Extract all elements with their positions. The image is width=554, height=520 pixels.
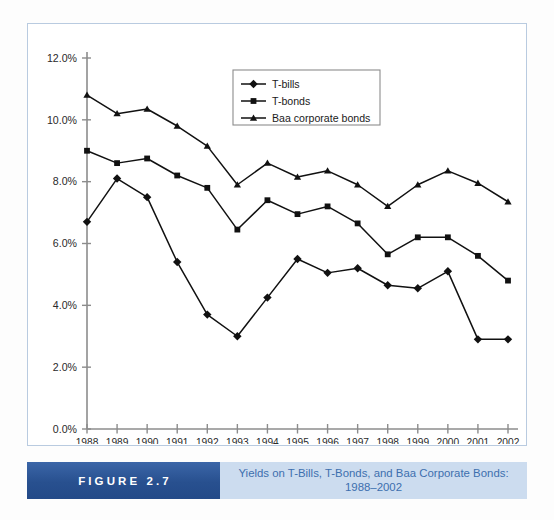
data-point <box>84 148 90 154</box>
y-tick-label: 6.0% <box>53 237 78 249</box>
data-point <box>83 91 90 97</box>
data-point <box>173 258 181 266</box>
data-point <box>144 156 150 162</box>
data-point <box>445 234 451 240</box>
data-point <box>504 198 511 204</box>
x-tick-label: 1994 <box>256 437 279 444</box>
x-tick-label: 1999 <box>406 437 429 444</box>
x-tick-label: 1993 <box>226 437 249 444</box>
x-tick-label: 2001 <box>467 437 490 444</box>
data-point <box>323 269 331 277</box>
data-point <box>384 281 392 289</box>
data-point <box>204 142 211 148</box>
data-point <box>204 185 210 191</box>
data-point <box>385 251 391 257</box>
figure-root: 0.0%2.0%4.0%6.0%8.0%10.0%12.0%1988198919… <box>0 0 554 520</box>
data-point <box>475 253 481 259</box>
data-point <box>505 278 511 284</box>
legend-label: T-bonds <box>272 95 310 107</box>
x-tick-label: 1992 <box>196 437 219 444</box>
data-point <box>504 335 512 343</box>
data-point <box>234 227 240 233</box>
y-tick-label: 10.0% <box>47 114 78 126</box>
x-tick-label: 1991 <box>166 437 189 444</box>
data-point <box>325 204 331 210</box>
data-point <box>295 211 301 217</box>
x-tick-label: 2000 <box>437 437 460 444</box>
x-tick-label: 1989 <box>106 437 129 444</box>
figure-caption-band: FIGURE 2.7 Yields on T-Bills, T-Bonds, a… <box>27 462 527 499</box>
data-point <box>415 234 421 240</box>
data-point <box>144 105 151 111</box>
figure-number-tag: FIGURE 2.7 <box>27 462 220 499</box>
data-point <box>114 160 120 166</box>
data-point <box>444 267 452 275</box>
data-point <box>355 221 361 227</box>
y-tick-label: 2.0% <box>53 361 78 373</box>
data-point <box>414 284 422 292</box>
data-point <box>174 173 180 179</box>
y-tick-label: 4.0% <box>53 299 78 311</box>
figure-caption: Yields on T-Bills, T-Bonds, and Baa Corp… <box>220 462 527 499</box>
data-point <box>474 335 482 343</box>
y-tick-label: 8.0% <box>53 175 78 187</box>
chart-frame: 0.0%2.0%4.0%6.0%8.0%10.0%12.0%1988198919… <box>27 23 527 446</box>
caption-line-2: 1988–2002 <box>345 480 402 494</box>
data-point <box>265 197 271 203</box>
x-tick-label: 1990 <box>136 437 159 444</box>
x-tick-label: 1997 <box>346 437 369 444</box>
data-point <box>174 122 181 128</box>
y-tick-label: 12.0% <box>47 52 78 64</box>
legend-label: Baa corporate bonds <box>272 112 370 124</box>
x-tick-label: 1988 <box>76 437 99 444</box>
data-point <box>353 264 361 272</box>
x-tick-label: 1998 <box>376 437 399 444</box>
data-point <box>264 159 271 165</box>
data-point <box>444 167 451 173</box>
x-tick-label: 2002 <box>497 437 520 444</box>
y-tick-label: 0.0% <box>53 423 78 435</box>
caption-line-1: Yields on T-Bills, T-Bonds, and Baa Corp… <box>238 466 508 480</box>
data-point <box>143 193 151 201</box>
x-tick-label: 1995 <box>286 437 309 444</box>
data-point <box>324 167 331 173</box>
yields-line-chart: 0.0%2.0%4.0%6.0%8.0%10.0%12.0%1988198919… <box>28 24 525 444</box>
legend-label: T-bills <box>272 78 300 90</box>
x-tick-label: 1996 <box>316 437 339 444</box>
legend-marker <box>251 98 257 104</box>
